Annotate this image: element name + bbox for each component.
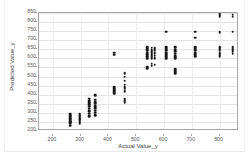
y-tick-label: 850 [0,9,36,14]
x-axis-title: Actual Value_y [38,143,238,150]
y-tick-mark [35,112,37,113]
y-tick-mark [35,12,37,13]
y-tick-label: 400 [0,91,36,96]
x-tick-mark [219,134,220,136]
y-tick-mark [35,130,37,131]
y-tick-mark [35,48,37,49]
y-tick-mark [35,94,37,95]
y-tick-label: 800 [0,18,36,23]
scatter-chart-figure: 2002503003504004505005506006507007508008… [0,0,249,163]
data-point [123,72,126,75]
data-point [218,51,221,54]
data-point [123,76,126,79]
data-point [174,45,177,48]
data-point [146,65,149,68]
data-point [88,97,91,100]
data-point [154,63,157,66]
gridline-horizontal [39,67,237,68]
data-point [123,79,126,82]
data-point [94,109,97,112]
gridline-vertical [192,13,193,129]
y-tick-label: 600 [0,55,36,60]
data-point [123,98,126,101]
x-tick-label: 500 [131,137,140,142]
y-tick-label: 200 [0,127,36,132]
y-tick-mark [35,39,37,40]
data-point [88,108,91,111]
gridline-horizontal [39,49,237,50]
data-point [232,53,235,56]
data-point [194,46,197,49]
x-tick-mark [80,134,81,136]
x-tick-mark [191,134,192,136]
y-axis-tick-labels: 2002503003504004505005506006507007508008… [0,12,36,130]
data-point [218,46,221,49]
gridline-vertical [136,13,137,129]
y-tick-label: 450 [0,82,36,87]
data-point [123,83,126,86]
gridline-vertical [53,13,54,129]
y-axis-title: Predicted Value_y [9,17,16,117]
y-tick-mark [35,21,37,22]
data-point [94,107,97,110]
data-point [154,47,157,50]
data-point [174,68,177,71]
data-point [194,30,197,33]
data-point [218,31,221,34]
data-point [94,94,97,97]
x-tick-label: 600 [159,137,168,142]
gridline-horizontal [39,95,237,96]
y-tick-label: 550 [0,64,36,69]
data-point [69,113,72,116]
x-axis-tick-labels: 200300400500600700800 [38,134,238,142]
gridline-horizontal [39,58,237,59]
data-point [194,36,197,39]
x-tick-label: 700 [186,137,195,142]
data-point [113,86,116,89]
data-point [79,112,82,115]
gridline-horizontal [39,31,237,32]
data-point [165,30,168,33]
data-point [232,46,235,49]
gridline-horizontal [39,13,237,14]
data-point [218,13,221,16]
x-tick-label: 300 [75,137,84,142]
data-point [88,112,91,115]
plot-area [38,12,238,130]
y-tick-mark [35,76,37,77]
y-tick-label: 500 [0,73,36,78]
y-tick-label: 250 [0,118,36,123]
y-tick-mark [35,57,37,58]
data-point [88,115,91,118]
y-tick-label: 300 [0,109,36,114]
x-tick-label: 400 [103,137,112,142]
x-tick-label: 200 [48,137,57,142]
gridline-horizontal [39,40,237,41]
gridline-horizontal [39,104,237,105]
gridline-vertical [108,13,109,129]
gridline-horizontal [39,86,237,87]
x-tick-mark [135,134,136,136]
y-tick-mark [35,85,37,86]
data-point [146,46,149,49]
data-point [174,53,177,56]
data-point [174,55,177,58]
y-tick-label: 750 [0,28,36,33]
data-point [154,57,157,60]
x-tick-mark [163,134,164,136]
x-tick-mark [52,134,53,136]
gridline-horizontal [39,22,237,23]
data-point [154,54,157,57]
y-tick-mark [35,121,37,122]
y-tick-label: 700 [0,37,36,42]
y-tick-mark [35,66,37,67]
data-point [94,98,97,101]
data-point [165,46,168,49]
data-point [88,105,91,108]
data-point [232,14,235,17]
x-tick-label: 800 [214,137,223,142]
y-tick-label: 650 [0,46,36,51]
data-point [232,30,235,33]
gridline-horizontal [39,77,237,78]
data-point [154,52,157,55]
